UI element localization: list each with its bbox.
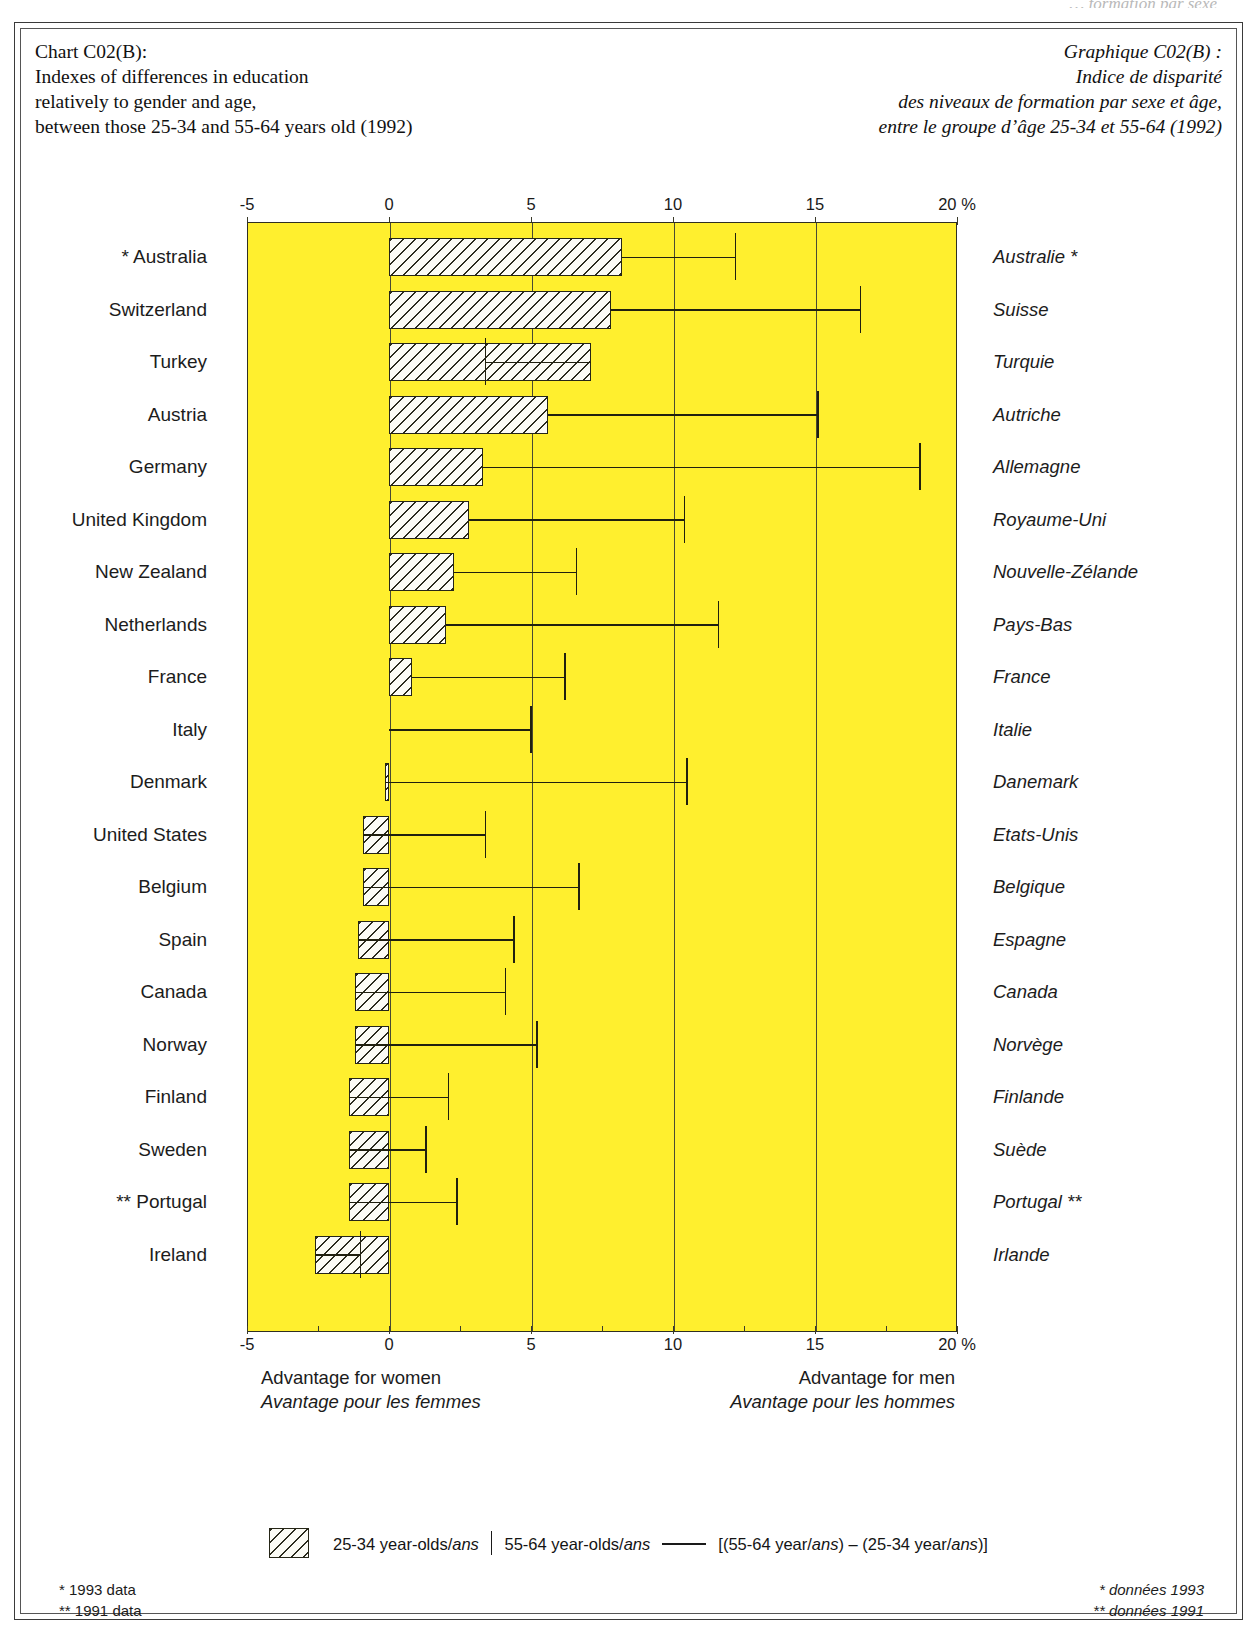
chart-row: FranceFrance <box>15 651 1242 704</box>
advantage-women-en: Advantage for women <box>261 1366 481 1390</box>
difference-line <box>486 362 591 364</box>
row-label-fr: Suisse <box>993 284 1257 337</box>
row-label-fr: Belgique <box>993 861 1257 914</box>
legend-vertical-bar-icon <box>491 1531 493 1555</box>
advantage-men: Advantage for men Avantage pour les homm… <box>730 1366 955 1414</box>
axis-tick-label-0: 0 <box>384 195 393 214</box>
chart-row: ** PortugalPortugal ** <box>15 1176 1242 1229</box>
advantage-women-fr: Avantage pour les femmes <box>261 1390 481 1414</box>
chart-area: -505101520 % * AustraliaAustralie *Switz… <box>15 23 1242 1619</box>
bar-25-34 <box>389 553 454 591</box>
advantage-captions: Advantage for women Avantage pour les fe… <box>247 1366 957 1418</box>
row-label-en: Netherlands <box>0 599 207 652</box>
difference-line <box>315 1254 360 1256</box>
difference-line <box>454 572 576 574</box>
row-label-en: France <box>0 651 207 704</box>
row-label-en: Spain <box>0 914 207 967</box>
axis-tick-label-20: 20 % <box>938 1335 976 1354</box>
chart-row: DenmarkDanemark <box>15 756 1242 809</box>
marker-55-64 <box>686 758 688 805</box>
legend-text: 25-34 year-olds/ans55-64 year-olds/ans[(… <box>333 1531 988 1555</box>
chart-row: SwitzerlandSuisse <box>15 284 1242 337</box>
difference-line <box>363 887 579 889</box>
difference-line <box>611 309 861 311</box>
axis-minor-tick <box>602 1326 603 1332</box>
axis-tick-label-20: 20 % <box>938 195 976 214</box>
difference-line <box>355 1044 537 1046</box>
difference-line <box>389 729 531 731</box>
legend-diff-ans2: ans <box>951 1535 978 1553</box>
difference-line <box>548 414 818 416</box>
row-label-fr: Australie * <box>993 231 1257 284</box>
x-axis-bottom: -505101520 % <box>247 1335 957 1361</box>
row-label-fr: Portugal ** <box>993 1176 1257 1229</box>
difference-line <box>446 624 719 626</box>
marker-55-64 <box>360 1231 362 1278</box>
advantage-women: Advantage for women Avantage pour les fe… <box>261 1366 481 1414</box>
marker-55-64 <box>425 1126 427 1173</box>
row-label-en: Germany <box>0 441 207 494</box>
marker-55-64 <box>513 916 515 963</box>
chart-row: GermanyAllemagne <box>15 441 1242 494</box>
row-label-fr: Finlande <box>993 1071 1257 1124</box>
marker-55-64 <box>536 1021 538 1068</box>
chart-row: FinlandFinlande <box>15 1071 1242 1124</box>
row-label-fr: Suède <box>993 1124 1257 1177</box>
row-label-fr: Etats-Unis <box>993 809 1257 862</box>
marker-55-64 <box>684 496 686 543</box>
row-label-fr: Nouvelle-Zélande <box>993 546 1257 599</box>
difference-line <box>483 467 920 469</box>
marker-55-64 <box>485 811 487 858</box>
axis-tick-0 <box>389 1326 390 1334</box>
legend-diff-mid: ) – (25-34 year/ <box>838 1535 951 1553</box>
row-label-en: Italy <box>0 704 207 757</box>
marker-55-64 <box>919 443 921 490</box>
marker-55-64 <box>578 863 580 910</box>
axis-tick-20 <box>957 217 958 225</box>
legend-line-icon <box>662 1543 706 1545</box>
bar-25-34 <box>389 501 469 539</box>
row-label-fr: Allemagne <box>993 441 1257 494</box>
row-label-fr: Norvège <box>993 1019 1257 1072</box>
chart-row: IrelandIrlande <box>15 1229 1242 1282</box>
axis-tick-10 <box>673 1326 674 1334</box>
difference-line <box>412 677 565 679</box>
row-label-en: Finland <box>0 1071 207 1124</box>
marker-55-64 <box>485 338 487 385</box>
row-label-en: Switzerland <box>0 284 207 337</box>
x-axis-top: -505101520 % <box>247 195 957 221</box>
axis-tick-label--5: -5 <box>240 195 255 214</box>
row-label-en: Canada <box>0 966 207 1019</box>
row-label-fr: Espagne <box>993 914 1257 967</box>
footnote-left: * 1993 data ** 1991 data <box>59 1579 142 1621</box>
chart-row: AustriaAutriche <box>15 389 1242 442</box>
row-label-fr: Irlande <box>993 1229 1257 1282</box>
row-label-en: Turkey <box>0 336 207 389</box>
legend-label-2534: 25-34 year-olds/ <box>333 1535 452 1553</box>
chart-row: TurkeyTurquie <box>15 336 1242 389</box>
legend-hatched-swatch-icon <box>269 1528 309 1558</box>
axis-tick-label-15: 15 <box>806 1335 824 1354</box>
axis-tick-label-15: 15 <box>806 195 824 214</box>
marker-55-64 <box>735 233 737 280</box>
axis-tick-label-10: 10 <box>664 1335 682 1354</box>
running-head: … formation par sexe <box>1069 0 1217 8</box>
marker-55-64 <box>448 1073 450 1120</box>
axis-minor-tick <box>886 1326 887 1332</box>
axis-tick-15 <box>815 1326 816 1334</box>
axis-tick-label-5: 5 <box>526 195 535 214</box>
difference-line <box>355 992 506 994</box>
row-label-fr: Turquie <box>993 336 1257 389</box>
bar-25-34 <box>389 396 548 434</box>
bar-25-34 <box>389 238 622 276</box>
marker-55-64 <box>564 653 566 700</box>
marker-55-64 <box>576 548 578 595</box>
axis-tick-20 <box>957 1326 958 1334</box>
legend-diff-post: )] <box>978 1535 988 1553</box>
row-label-en: New Zealand <box>0 546 207 599</box>
bar-25-34 <box>389 658 412 696</box>
row-label-fr: Danemark <box>993 756 1257 809</box>
chart-legend: 25-34 year-olds/ans55-64 year-olds/ans[(… <box>15 1521 1242 1565</box>
row-label-en: Belgium <box>0 861 207 914</box>
axis-tick-label-0: 0 <box>384 1335 393 1354</box>
